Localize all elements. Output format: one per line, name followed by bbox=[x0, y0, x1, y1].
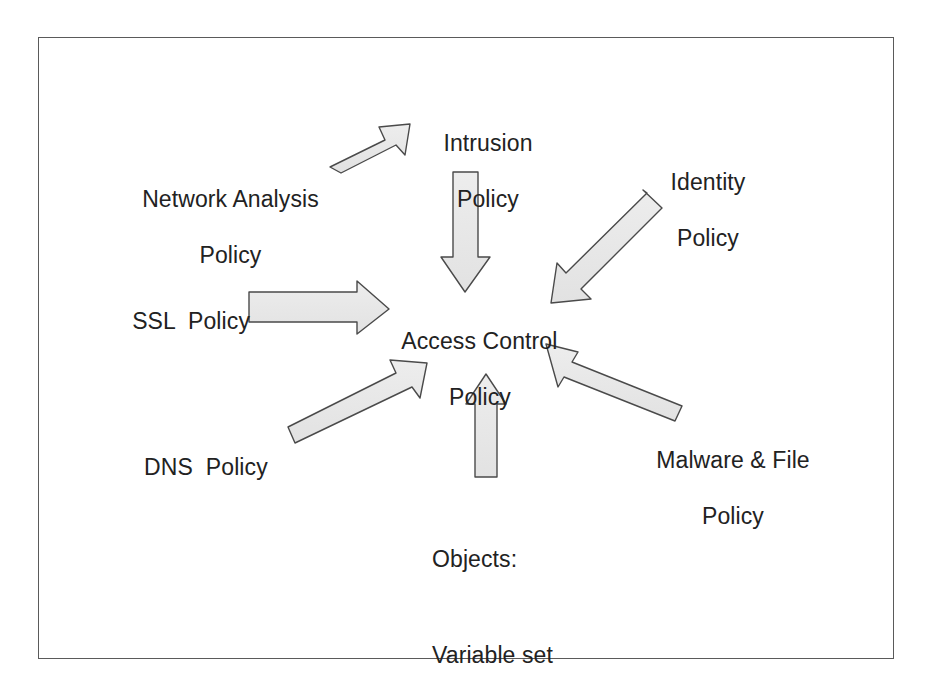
node-label-network-analysis-policy: Network Analysis Policy bbox=[110, 157, 325, 297]
node-label-malware-file-policy: Malware & File Policy bbox=[620, 418, 820, 558]
node-label-objects-note: Objects: Variable set Network Port etc. bbox=[432, 481, 632, 700]
identity-policy-line2: Policy bbox=[677, 225, 739, 251]
access-control-policy-line1: Access Control bbox=[401, 328, 557, 354]
node-label-identity-policy: Identity Policy bbox=[620, 140, 770, 280]
access-control-policy-line2: Policy bbox=[449, 384, 511, 410]
intrusion-policy-line2: Policy bbox=[457, 186, 519, 212]
objects-note-line2: Variable set bbox=[432, 640, 632, 672]
node-label-ssl-policy: SSL Policy bbox=[90, 279, 250, 363]
ssl-policy-line1: SSL Policy bbox=[132, 308, 250, 334]
objects-note-line1: Objects: bbox=[432, 544, 632, 576]
dns-policy-line1: DNS Policy bbox=[144, 454, 268, 480]
node-label-access-control-policy: Access Control Policy bbox=[372, 299, 562, 439]
malware-file-policy-line1: Malware & File bbox=[656, 447, 810, 473]
arrow-malware-to-access bbox=[546, 344, 682, 421]
node-label-dns-policy: DNS Policy bbox=[118, 425, 278, 509]
diagram-canvas: Intrusion Policy Network Analysis Policy… bbox=[0, 0, 936, 700]
network-analysis-policy-line1: Network Analysis bbox=[142, 186, 319, 212]
intrusion-policy-line1: Intrusion bbox=[443, 130, 532, 156]
identity-policy-line1: Identity bbox=[671, 169, 746, 195]
malware-file-policy-line2: Policy bbox=[702, 503, 764, 529]
node-label-intrusion-policy: Intrusion Policy bbox=[390, 101, 560, 241]
network-analysis-policy-line2: Policy bbox=[200, 242, 262, 268]
